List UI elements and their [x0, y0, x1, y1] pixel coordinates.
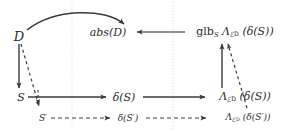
lambda-symbol: Λ [222, 25, 230, 38]
node-lambda-state: ΛℰD (δ(S)) [219, 91, 271, 104]
node-domain: D [14, 30, 24, 43]
node-lambda-state-prime: ΛℰD (δ(S′)) [225, 113, 270, 123]
node-state-prime: S′ [39, 114, 47, 123]
glb-name: glb [196, 25, 214, 38]
lambda-argument: (δ(S′)) [243, 112, 271, 122]
node-state: S [17, 92, 25, 103]
lambda-argument: (δ(S)) [239, 90, 270, 103]
node-abs-domain: abs(D) [90, 27, 127, 38]
node-glb-expression: glbS ΛℰD (δ(S)) [196, 26, 273, 39]
glb-argument: (δ(S)) [242, 25, 273, 38]
lambda-symbol: Λ [219, 90, 227, 103]
abs-prefix: abs( [90, 26, 114, 39]
abs-suffix: ) [122, 26, 126, 39]
node-delta-state-prime: δ(S′) [118, 114, 139, 123]
node-delta-state: δ(S) [113, 92, 136, 103]
commutative-diagram: D abs(D) glbS ΛℰD (δ(S)) S δ(S) ΛℰD (δ(S… [0, 0, 296, 132]
